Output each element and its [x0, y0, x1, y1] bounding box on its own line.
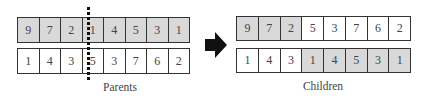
gene-cell: 1	[237, 49, 259, 72]
gene-cell: 6	[147, 49, 169, 73]
parent-1-row: 9 7 2 1 4 5 3 1	[17, 17, 190, 43]
child-2-row: 1 4 3 1 4 5 3 1	[236, 48, 411, 73]
gene-cell: 5	[346, 49, 368, 72]
gene-cell: 6	[368, 17, 390, 40]
gene-cell: 3	[368, 49, 390, 72]
gene-cell: 9	[237, 17, 259, 40]
gene-cell: 7	[259, 17, 281, 40]
gene-cell: 9	[18, 18, 40, 42]
gene-cell: 7	[126, 49, 148, 73]
gene-cell: 5	[83, 49, 105, 73]
gene-cell: 5	[302, 17, 324, 40]
gene-cell: 3	[61, 49, 83, 73]
gene-cell: 4	[40, 49, 62, 73]
gene-cell: 2	[281, 17, 303, 40]
right-arrow-icon	[205, 32, 227, 58]
gene-cell: 2	[169, 49, 190, 73]
gene-cell: 7	[346, 17, 368, 40]
crossover-cut-line	[87, 7, 90, 81]
gene-cell: 2	[389, 17, 410, 40]
gene-cell: 1	[83, 18, 105, 42]
gene-cell: 1	[389, 49, 410, 72]
gene-cell: 3	[281, 49, 303, 72]
gene-cell: 4	[104, 18, 126, 42]
gene-cell: 7	[40, 18, 62, 42]
gene-cell: 5	[126, 18, 148, 42]
parent-2-row: 1 4 3 5 3 7 6 2	[17, 48, 190, 74]
gene-cell: 2	[61, 18, 83, 42]
gene-cell: 3	[324, 17, 346, 40]
parents-label: Parents	[80, 81, 160, 93]
gene-cell: 4	[259, 49, 281, 72]
gene-cell: 3	[104, 49, 126, 73]
child-1-row: 9 7 2 5 3 7 6 2	[236, 16, 411, 41]
gene-cell: 1	[302, 49, 324, 72]
gene-cell: 1	[169, 18, 190, 42]
children-label: Children	[283, 80, 363, 92]
gene-cell: 1	[18, 49, 40, 73]
gene-cell: 3	[147, 18, 169, 42]
gene-cell: 4	[324, 49, 346, 72]
